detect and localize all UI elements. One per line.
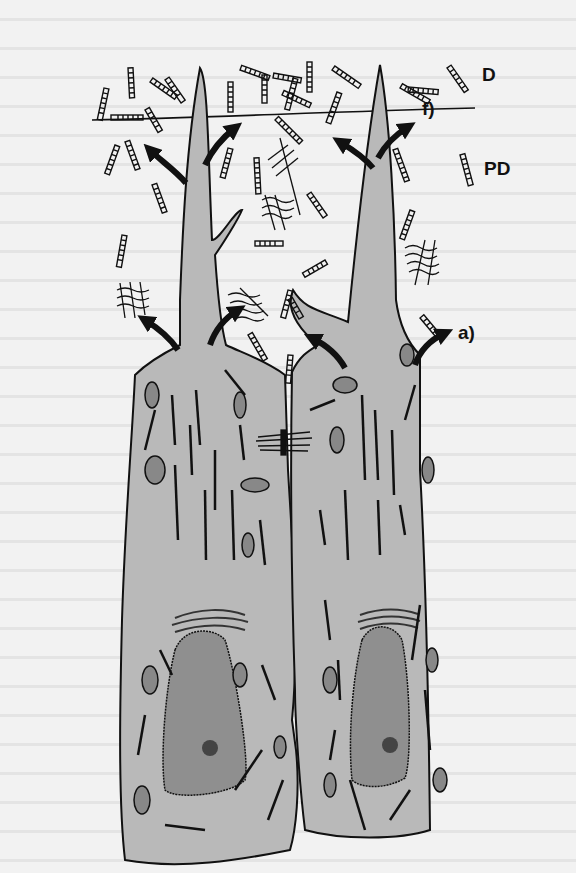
label-f: f) <box>422 98 435 120</box>
right-nucleolus <box>382 737 398 753</box>
fibril-bundle-left <box>117 282 149 318</box>
fibril-bundle-center <box>262 138 300 230</box>
label-predentin: PD <box>484 158 510 180</box>
label-dentin: D <box>482 64 496 86</box>
fibril-bundle-right <box>405 240 439 285</box>
right-cell <box>291 65 447 838</box>
arrow-left-bottom-1 <box>145 320 178 350</box>
arrow-left-top-1 <box>150 150 186 183</box>
left-nucleolus <box>202 740 218 756</box>
label-a: a) <box>458 322 475 344</box>
arrow-right-bottom-2 <box>415 333 445 365</box>
left-cell <box>120 68 297 864</box>
cell-diagram <box>0 0 576 873</box>
